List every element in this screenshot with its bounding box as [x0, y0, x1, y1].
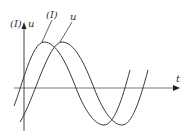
waveform-diagram: t (I) u (I) u: [0, 0, 188, 138]
current-curve: [14, 42, 130, 125]
voltage-curve-label: u: [70, 11, 76, 22]
vertical-axis-arrow-icon: [22, 22, 27, 29]
vertical-axis-label-current: (I): [10, 18, 22, 29]
t-axis-arrow-icon: [173, 85, 180, 91]
voltage-curve: [20, 42, 148, 125]
t-axis-label: t: [176, 73, 181, 84]
current-leader-line: [42, 20, 52, 42]
current-curve-label: (I): [46, 9, 58, 20]
voltage-leader-line: [60, 22, 72, 42]
vertical-axis-label-voltage: u: [28, 18, 34, 29]
